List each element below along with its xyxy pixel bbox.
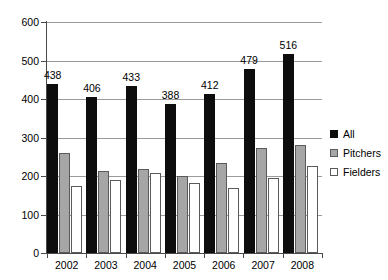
bar-pitchers-2008 xyxy=(295,145,306,253)
y-tick-mark-500 xyxy=(41,61,46,62)
x-axis-label-2002: 2002 xyxy=(47,259,86,271)
legend-label: All xyxy=(343,129,355,140)
y-tick-label: 200 xyxy=(21,171,39,181)
x-tick-separator xyxy=(86,253,87,258)
legend-swatch-icon xyxy=(330,149,338,157)
x-axis-label-2004: 2004 xyxy=(126,259,165,271)
y-tick-label: 600 xyxy=(21,17,39,27)
x-axis-label-2008: 2008 xyxy=(283,259,322,271)
bar-value-label: 406 xyxy=(78,83,105,94)
bar-value-label: 438 xyxy=(39,70,66,81)
bar-chart: 0100200300400500600 43840643338841247951… xyxy=(0,0,388,280)
legend-label: Fielders xyxy=(343,167,380,178)
x-tick-separator xyxy=(204,253,205,258)
bar-pitchers-2005 xyxy=(177,176,188,253)
y-tick-mark-600 xyxy=(41,22,46,23)
bar-fielders-2008 xyxy=(307,166,318,253)
bar-all-2003 xyxy=(86,97,97,253)
y-tick-mark-0 xyxy=(41,253,46,254)
bar-pitchers-2004 xyxy=(138,169,149,253)
plot-area: 438406433388412479516 xyxy=(47,22,322,253)
bar-group-2007: 479 xyxy=(243,22,282,253)
y-tick-label: 500 xyxy=(21,56,39,66)
bar-pitchers-2002 xyxy=(59,153,70,253)
legend-swatch-icon xyxy=(330,168,338,176)
chart-legend: AllPitchersFielders xyxy=(330,126,388,183)
bar-pitchers-2007 xyxy=(256,148,267,253)
legend-item-fielders[interactable]: Fielders xyxy=(330,164,388,180)
x-axis-line xyxy=(46,253,323,254)
x-tick-separator xyxy=(165,253,166,258)
y-tick-mark-300 xyxy=(41,138,46,139)
bar-value-label: 388 xyxy=(157,90,184,101)
bar-all-2006 xyxy=(204,94,215,253)
y-tick-mark-100 xyxy=(41,215,46,216)
bar-group-2003: 406 xyxy=(86,22,125,253)
x-axis-label-2005: 2005 xyxy=(165,259,204,271)
x-tick-separator xyxy=(322,253,323,258)
bar-group-2005: 388 xyxy=(165,22,204,253)
bar-fielders-2002 xyxy=(71,186,82,253)
legend-item-all[interactable]: All xyxy=(330,126,388,142)
bar-all-2004 xyxy=(126,86,137,253)
legend-label: Pitchers xyxy=(343,148,381,159)
bar-fielders-2006 xyxy=(228,188,239,253)
x-axis-label-2003: 2003 xyxy=(86,259,125,271)
bar-all-2002 xyxy=(47,84,58,253)
bar-fielders-2007 xyxy=(268,178,279,253)
x-tick-separator xyxy=(243,253,244,258)
x-tick-separator xyxy=(47,253,48,258)
bar-pitchers-2003 xyxy=(98,171,109,253)
bar-fielders-2004 xyxy=(150,173,161,253)
bar-value-label: 433 xyxy=(118,72,145,83)
bar-group-2008: 516 xyxy=(283,22,322,253)
x-tick-separator xyxy=(126,253,127,258)
bar-value-label: 516 xyxy=(275,40,302,51)
x-axis-label-2006: 2006 xyxy=(204,259,243,271)
legend-swatch-icon xyxy=(330,130,338,138)
bar-all-2007 xyxy=(244,69,255,253)
bar-group-2002: 438 xyxy=(47,22,86,253)
bar-group-2004: 433 xyxy=(126,22,165,253)
bar-pitchers-2006 xyxy=(216,163,227,253)
bar-fielders-2005 xyxy=(189,183,200,253)
legend-item-pitchers[interactable]: Pitchers xyxy=(330,145,388,161)
x-axis-label-2007: 2007 xyxy=(243,259,282,271)
y-tick-mark-200 xyxy=(41,176,46,177)
bar-value-label: 479 xyxy=(236,55,263,66)
y-tick-label: 300 xyxy=(21,133,39,143)
bar-fielders-2003 xyxy=(110,180,121,253)
y-tick-mark-400 xyxy=(41,99,46,100)
bar-all-2005 xyxy=(165,104,176,253)
bar-all-2008 xyxy=(283,54,294,253)
y-tick-label: 100 xyxy=(21,210,39,220)
bar-value-label: 412 xyxy=(196,80,223,91)
x-tick-separator xyxy=(283,253,284,258)
y-tick-label: 400 xyxy=(21,94,39,104)
y-tick-label: 0 xyxy=(33,248,39,258)
